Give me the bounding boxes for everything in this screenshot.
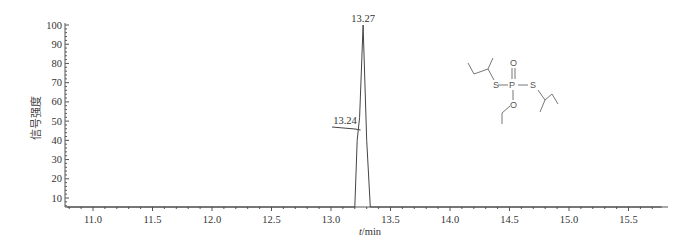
x-tick-label: 11.0 [84, 214, 102, 225]
x-tick-label: 13.0 [322, 214, 340, 225]
y-tick-label: 30 [52, 154, 63, 165]
y-tick-label: 50 [52, 116, 63, 127]
x-tick-label: 13.5 [381, 214, 399, 225]
y-tick-label: 10 [52, 193, 63, 204]
x-axis-label: t/min [359, 226, 382, 237]
x-tick-label: 15.0 [560, 214, 578, 225]
y-tick-label: 40 [52, 135, 63, 146]
chemical-structure-inset: S P S O O [468, 58, 558, 124]
sulfur-atom-left: S [493, 80, 499, 90]
x-tick-label: 14.0 [441, 214, 459, 225]
oxygen-atom-ester: O [510, 100, 517, 110]
y-tick-label: 80 [52, 58, 63, 69]
y-tick-label: 90 [52, 39, 63, 50]
peak-label-main: 13.27 [351, 13, 375, 24]
y-tick-label: 100 [46, 20, 62, 31]
axes [65, 23, 668, 211]
x-tick-label: 14.5 [500, 214, 518, 225]
chromatogram-trace [67, 25, 662, 207]
x-tick-label: 11.5 [144, 214, 162, 225]
x-tick-labels: 11.011.512.012.513.013.514.014.515.015.5 [84, 214, 638, 225]
y-axis-label: 信号强度 [29, 96, 43, 140]
x-tick-label: 15.5 [619, 214, 637, 225]
x-tick-label: 12.5 [262, 214, 280, 225]
y-tick-label: 20 [52, 173, 63, 184]
y-tick-label: 70 [52, 77, 63, 88]
x-tick-label: 12.0 [203, 214, 221, 225]
peak-annotations: 13.2713.24 [332, 13, 375, 130]
y-tick-label: 60 [52, 96, 63, 107]
y-ticks [65, 25, 69, 206]
phosphorus-atom: P [509, 80, 515, 90]
y-tick-labels: 102030405060708090100 [46, 20, 62, 204]
peak-label-shoulder: 13.24 [333, 115, 357, 126]
sulfur-atom-right: S [530, 80, 536, 90]
chromatogram-chart: 102030405060708090100 11.011.512.012.513… [0, 0, 698, 243]
oxygen-atom-double: O [510, 58, 517, 68]
x-ticks [69, 207, 652, 211]
